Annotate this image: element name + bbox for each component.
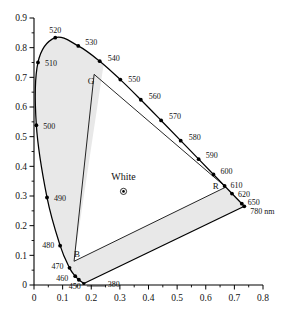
white-point-symbol [120, 188, 126, 194]
x-tick-label: 0.4 [143, 293, 155, 303]
x-tick-label: 0.1 [57, 293, 69, 303]
y-tick-label: 0.8 [15, 43, 27, 53]
wavelength-label-620: 620 [238, 190, 250, 199]
locus-point-480 [58, 244, 62, 248]
wavelength-label-480: 480 [42, 241, 54, 250]
wavelength-label-460: 460 [56, 274, 68, 283]
wavelength-label-600: 600 [220, 167, 232, 176]
wavelength-label-520: 520 [49, 26, 61, 35]
wavelength-label-780: 780 nm [250, 207, 275, 216]
locus-point-570 [159, 119, 163, 123]
wavelength-label-380: 380 [108, 280, 120, 289]
wavelength-label-550: 550 [128, 75, 140, 84]
wavelength-label-590: 590 [206, 151, 218, 160]
y-tick-label: 0.5 [15, 132, 27, 142]
locus-point-600 [212, 173, 216, 177]
wavelength-label-500: 500 [43, 122, 55, 131]
wavelength-label-530: 530 [85, 38, 97, 47]
y-tick-label: 0.1 [15, 251, 27, 261]
locus-point-380 [82, 282, 85, 285]
y-tick-label: 0.3 [15, 191, 27, 201]
wavelength-label-580: 580 [189, 133, 201, 142]
wavelength-label-470: 470 [52, 262, 64, 271]
white-point-marker: White [111, 171, 136, 194]
y-tick-label: 0.9 [15, 13, 27, 23]
wavelength-label-650: 650 [248, 198, 260, 207]
wavelength-label-490: 490 [54, 194, 66, 203]
white-point-label: White [111, 171, 136, 182]
primary-label-r: R [213, 181, 219, 191]
purple-line-sliver [74, 187, 244, 283]
wavelength-label-540: 540 [108, 54, 120, 63]
x-tick-label: 0.2 [85, 293, 97, 303]
locus-point-590 [197, 157, 201, 161]
x-tick-label: 0.8 [257, 293, 269, 303]
primary-label-b: B [74, 249, 80, 259]
locus-point-550 [118, 78, 122, 82]
x-tick-label: 0.7 [228, 293, 240, 303]
y-tick-label: 0.6 [15, 102, 27, 112]
locus-point-610 [223, 184, 227, 188]
x-tick-label: 0.3 [114, 293, 126, 303]
wavelength-label-560: 560 [149, 92, 161, 101]
locus-point-500 [34, 123, 38, 127]
primary-label-g: G [88, 76, 95, 86]
chromaticity-diagram: 00.10.20.30.40.50.60.70.80.900.10.20.30.… [0, 0, 287, 314]
locus-point-510 [36, 61, 40, 65]
locus-point-580 [179, 139, 183, 143]
locus-point-530 [76, 44, 80, 48]
locus-point-470 [68, 266, 72, 270]
locus-point-620 [230, 192, 234, 196]
wavelength-label-450: 450 [69, 282, 81, 291]
purple-sliver-fill [74, 187, 244, 283]
x-tick-label: 0.5 [171, 293, 183, 303]
locus-point-460 [73, 274, 77, 278]
y-tick-label: 0.7 [15, 73, 27, 83]
x-tick-label: 0 [32, 293, 37, 303]
y-tick-label: 0.4 [15, 162, 27, 172]
locus-point-540 [98, 59, 102, 63]
wavelength-label-570: 570 [169, 112, 181, 121]
x-tick-label: 0.6 [200, 293, 212, 303]
locus-point-560 [139, 98, 143, 102]
locus-point-520 [53, 36, 57, 40]
chart-canvas: 00.10.20.30.40.50.60.70.80.900.10.20.30.… [0, 0, 287, 314]
locus-point-780 [242, 204, 246, 208]
locus-point-490 [45, 196, 49, 200]
y-tick-label: 0 [22, 280, 27, 290]
wavelength-label-510: 510 [45, 59, 57, 68]
y-tick-label: 0.2 [15, 221, 27, 231]
